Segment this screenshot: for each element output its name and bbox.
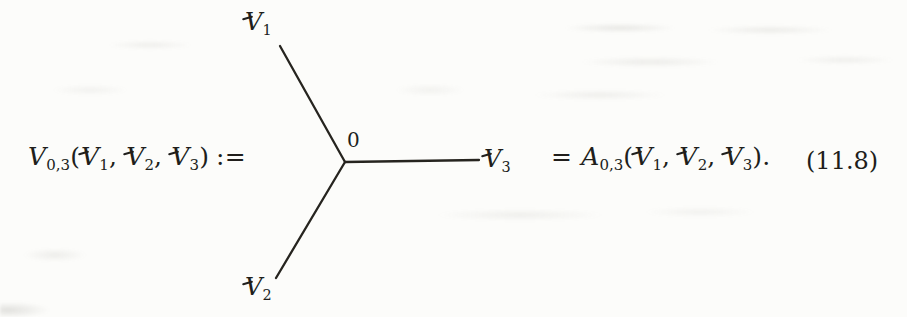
rhs-arg3-letter: V <box>723 142 742 171</box>
vertex-label: 0 <box>347 128 360 152</box>
diagram-leg-top <box>280 46 345 162</box>
lhs-arg3-letter: V <box>170 142 189 171</box>
lhs-open-paren: ( <box>70 142 80 171</box>
lhs-arg2-subscript: 2 <box>144 156 154 174</box>
lhs-close-paren: ) <box>199 142 209 171</box>
rhs-arg2-subscript: 2 <box>698 156 708 174</box>
rhs-open-paren: ( <box>623 142 633 171</box>
leg-top-subscript: 1 <box>263 22 272 38</box>
equals-symbol: = <box>551 142 572 171</box>
lhs-arg3-subscript: 3 <box>190 156 200 174</box>
leg-bottom-subscript: 2 <box>263 287 272 303</box>
rhs-function-subscript: 0,3 <box>599 156 623 174</box>
scanned-page: V0,3(V1, V2, V3):= V1 V2 V3 0 =A0,3(V1, … <box>0 0 907 317</box>
leg-right-letter: V <box>483 145 502 173</box>
equation-rhs: =A0,3(V1, V2, V3). <box>551 142 770 174</box>
lhs-arg1-subscript: 1 <box>99 156 109 174</box>
equation-number: (11.8) <box>806 147 878 175</box>
lhs-function-subscript: 0,3 <box>46 156 70 174</box>
rhs-arg2-letter: V <box>678 142 697 171</box>
lhs-arg2-letter: V <box>125 142 144 171</box>
rhs-function-letter: A <box>581 142 599 171</box>
lhs-separator-1: , <box>109 142 125 171</box>
lhs-function-letter: V <box>28 142 46 171</box>
rhs-separator-2: , <box>707 142 723 171</box>
assignment-symbol: := <box>216 142 246 171</box>
leg-label-right: V3 <box>483 145 511 175</box>
rhs-separator-1: , <box>662 142 678 171</box>
leg-label-top: V1 <box>244 8 272 38</box>
rhs-arg3-subscript: 3 <box>743 156 753 174</box>
leg-top-letter: V <box>244 8 263 36</box>
lhs-separator-2: , <box>154 142 170 171</box>
leg-bottom-letter: V <box>244 273 263 301</box>
diagram-leg-bottom-left <box>276 162 345 278</box>
rhs-close-paren-period: ). <box>752 142 770 171</box>
rhs-arg1-subscript: 1 <box>653 156 663 174</box>
rhs-arg1-letter: V <box>633 142 652 171</box>
diagram-leg-right <box>345 160 479 162</box>
leg-label-bottom-left: V2 <box>244 273 272 303</box>
leg-right-subscript: 3 <box>502 159 511 175</box>
lhs-arg1-letter: V <box>80 142 99 171</box>
equation-lhs: V0,3(V1, V2, V3):= <box>28 142 246 174</box>
